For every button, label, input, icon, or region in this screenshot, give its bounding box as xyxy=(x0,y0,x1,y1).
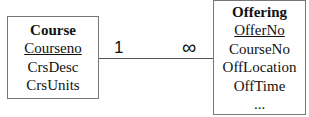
attribute: CrsUnits xyxy=(8,76,98,95)
attribute: CrsDesc xyxy=(8,58,98,77)
cardinality-one: 1 xyxy=(114,38,123,58)
entity-course: Course Courseno CrsDesc CrsUnits xyxy=(7,16,99,99)
attribute: CourseNo xyxy=(214,40,305,59)
entity-offering: Offering OfferNo CourseNo OffLocation Of… xyxy=(213,0,306,115)
entity-title: Course xyxy=(8,21,98,39)
entity-title: Offering xyxy=(214,3,305,21)
primary-key-attribute: OfferNo xyxy=(214,21,305,40)
attribute: OffTime xyxy=(214,77,305,96)
attribute: OffLocation xyxy=(214,58,305,77)
cardinality-many: ∞ xyxy=(182,36,196,59)
ellipsis: ... xyxy=(214,95,305,114)
primary-key-attribute: Courseno xyxy=(8,39,98,58)
